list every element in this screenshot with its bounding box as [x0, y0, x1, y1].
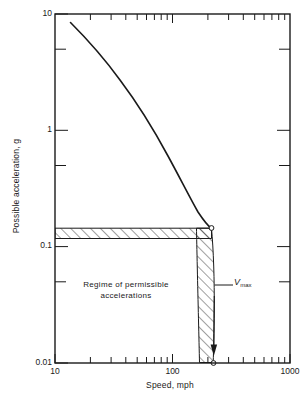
xtick-label-100: 100: [155, 366, 190, 376]
hatch-vertical-band: [197, 228, 215, 362]
curve-corner-marker: [209, 226, 214, 231]
plot-background: [55, 14, 290, 363]
hatch-horizontal-band: [55, 228, 212, 238]
chart-plot-area: [0, 0, 303, 399]
regime-annotation-line1: Regime of permissible: [83, 280, 168, 289]
x-axis-title: Speed, mph: [110, 380, 230, 390]
xtick-label-1000: 1000: [270, 366, 303, 376]
vmax-annotation: Vmax: [234, 277, 252, 288]
vmax-arrow: [214, 296, 215, 352]
chart-figure: 10 1 0.1 0.01 10 100 1000 Possible accel…: [0, 0, 303, 399]
ytick-label-10: 10: [20, 8, 52, 18]
regime-annotation: Regime of permissible accelerations: [60, 279, 192, 301]
ytick-label-0-1: 0.1: [20, 240, 52, 250]
ytick-label-1: 1: [20, 124, 52, 134]
vmax-subscript: max: [240, 282, 251, 288]
y-axis-title: Possible acceleration, g: [11, 121, 21, 251]
xtick-label-10: 10: [40, 366, 70, 376]
regime-annotation-line2: accelerations: [100, 291, 151, 300]
